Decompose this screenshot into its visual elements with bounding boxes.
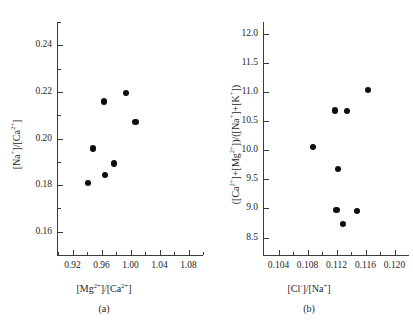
data-point [340, 221, 346, 227]
x-tick-minor [322, 252, 323, 255]
y-tick-label: 0.18 [35, 180, 52, 190]
data-point [123, 90, 129, 96]
x-tick-minor [58, 252, 59, 255]
panel-caption-b: (b) [205, 303, 413, 314]
y-axis-title-a: [Na+]/[Ca2+] [11, 85, 22, 205]
y-tick-label: 0.24 [35, 41, 52, 51]
y-tick-major [58, 92, 63, 93]
x-tick-major [279, 250, 280, 255]
data-point [132, 119, 138, 125]
y-tick-major [264, 121, 269, 122]
y-tick-label: 10.5 [241, 116, 258, 126]
x-tick-label: 0.116 [355, 261, 376, 271]
y-tick-major [264, 150, 269, 151]
y-tick-major [264, 208, 269, 209]
x-tick-label: 0.112 [326, 261, 347, 271]
x-tick-label: 0.108 [297, 261, 318, 271]
y-tick-label: 10.0 [241, 145, 258, 155]
x-tick-major [337, 250, 338, 255]
x-tick-label: 1.08 [180, 261, 197, 271]
y-axis-title-b: ([Ca2+]+[Mg2+])/([Na+]+[K+]) [230, 55, 241, 235]
y-tick-label: 12.0 [241, 29, 258, 39]
chart-panel-b: 8.59.09.510.010.511.011.512.00.1040.1080… [205, 0, 413, 327]
chart-panel-a: 0.160.180.200.220.240.920.961.001.041.08… [0, 0, 208, 327]
x-tick-major [73, 250, 74, 255]
x-tick-label: 0.92 [64, 261, 81, 271]
y-tick-major [58, 45, 63, 46]
x-tick-minor [145, 252, 146, 255]
x-tick-label: 0.104 [268, 261, 289, 271]
x-tick-major [308, 250, 309, 255]
x-tick-major [160, 250, 161, 255]
x-tick-major [131, 250, 132, 255]
x-tick-major [189, 250, 190, 255]
x-tick-label: 0.96 [93, 261, 110, 271]
x-tick-minor [380, 252, 381, 255]
x-tick-major [102, 250, 103, 255]
y-tick-label: 9.5 [246, 175, 258, 185]
figure-container: 0.160.180.200.220.240.920.961.001.041.08… [0, 0, 413, 327]
data-point [354, 208, 360, 214]
y-tick-minor [58, 115, 61, 116]
y-tick-major [264, 92, 269, 93]
x-tick-major [366, 250, 367, 255]
data-point [333, 207, 339, 213]
x-axis-title-b: [Cl-]/[Na+] [205, 283, 413, 294]
y-tick-label: 0.16 [35, 227, 52, 237]
x-tick-label: 0.120 [384, 261, 405, 271]
y-tick-major [58, 139, 63, 140]
y-tick-minor [58, 162, 61, 163]
y-tick-label: 11.5 [242, 58, 258, 68]
y-tick-major [264, 179, 269, 180]
data-point [101, 98, 107, 104]
data-point [310, 144, 316, 150]
x-tick-minor [116, 252, 117, 255]
data-point [365, 87, 371, 93]
x-tick-label: 1.04 [151, 261, 168, 271]
y-tick-major [264, 34, 269, 35]
x-tick-minor [87, 252, 88, 255]
data-point [90, 145, 96, 151]
data-point [85, 180, 91, 186]
y-tick-major [58, 232, 63, 233]
y-tick-major [264, 63, 269, 64]
data-point [102, 172, 108, 178]
y-tick-label: 0.20 [35, 134, 52, 144]
plot-area-a: 0.160.180.200.220.240.920.961.001.041.08 [57, 22, 203, 256]
plot-area-b: 8.59.09.510.010.511.011.512.00.1040.1080… [263, 22, 409, 256]
data-point [344, 108, 350, 114]
data-point [335, 166, 341, 172]
y-tick-label: 9.0 [246, 204, 258, 214]
data-layer-a [58, 22, 203, 255]
y-tick-major [58, 185, 63, 186]
x-tick-minor [174, 252, 175, 255]
data-layer-b [264, 22, 409, 255]
y-tick-minor [58, 69, 61, 70]
y-tick-minor [58, 208, 61, 209]
data-point [111, 160, 117, 166]
x-tick-label: 1.00 [122, 261, 139, 271]
data-point [332, 107, 338, 113]
y-tick-label: 0.22 [35, 87, 52, 97]
x-tick-minor [203, 252, 204, 255]
y-tick-label: 8.5 [246, 233, 258, 243]
x-tick-minor [293, 252, 294, 255]
panel-caption-a: (a) [0, 303, 208, 314]
x-tick-minor [351, 252, 352, 255]
y-tick-minor [58, 255, 61, 256]
y-tick-minor [58, 22, 61, 23]
y-tick-major [264, 238, 269, 239]
y-tick-label: 11.0 [242, 87, 258, 97]
x-axis-title-a: [Mg2+]/[Ca2+] [0, 283, 208, 294]
x-tick-major [395, 250, 396, 255]
